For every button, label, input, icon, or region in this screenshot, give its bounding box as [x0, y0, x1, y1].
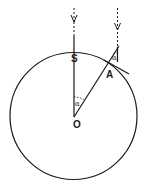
- label-a: A: [106, 69, 113, 80]
- label-alpha-o: α: [75, 100, 80, 108]
- diagram-canvas: S A O α α: [0, 0, 144, 191]
- label-s: S: [71, 53, 78, 64]
- label-o: O: [73, 119, 81, 130]
- label-alpha-a: α: [112, 54, 117, 62]
